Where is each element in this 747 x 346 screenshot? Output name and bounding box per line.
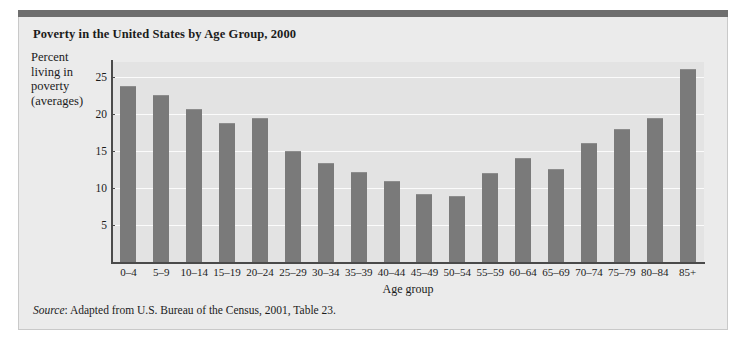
bar (482, 173, 498, 262)
bar (153, 95, 169, 262)
y-tick-label: 25 (83, 71, 107, 83)
x-tick-label: 80–84 (638, 266, 671, 278)
x-tick-label: 75–79 (605, 266, 638, 278)
bar (680, 69, 696, 262)
bar (186, 109, 202, 262)
x-tick-label: 60–64 (507, 266, 540, 278)
y-tick-label: 10 (83, 182, 107, 194)
y-tick-label: 15 (83, 145, 107, 157)
gridline (112, 77, 704, 79)
bar (581, 143, 597, 262)
x-axis-line (111, 262, 705, 264)
source-text: : Adapted from U.S. Bureau of the Census… (65, 304, 336, 316)
x-tick-label: 35–39 (342, 266, 375, 278)
x-tick-label: 5–9 (145, 266, 178, 278)
y-tick-label: 20 (83, 108, 107, 120)
figure-page: Poverty in the United States by Age Grou… (0, 0, 747, 346)
source-note: Source: Adapted from U.S. Bureau of the … (33, 304, 336, 316)
y-tick-labels: 510152025 (79, 62, 107, 262)
bar (318, 163, 334, 262)
x-tick-label: 65–69 (540, 266, 573, 278)
y-tick-mark (111, 114, 115, 116)
plot-area (112, 62, 704, 262)
x-tick-label: 15–19 (211, 266, 244, 278)
bar (120, 86, 136, 262)
x-tick-label: 30–34 (309, 266, 342, 278)
x-tick-label: 10–14 (178, 266, 211, 278)
y-tick-mark (111, 225, 115, 227)
y-axis-line (111, 60, 113, 263)
bar (647, 118, 663, 262)
bar (614, 129, 630, 262)
x-tick-label: 20–24 (244, 266, 277, 278)
x-tick-label: 50–54 (441, 266, 474, 278)
x-tick-label: 85+ (671, 266, 704, 278)
bar (285, 151, 301, 262)
x-tick-label: 55–59 (474, 266, 507, 278)
figure-top-rule (18, 10, 728, 17)
x-tick-labels: 0–45–910–1415–1920–2425–2930–3435–3940–4… (112, 266, 704, 282)
x-axis-title: Age group (112, 282, 704, 297)
bar (384, 181, 400, 262)
x-tick-label: 25–29 (276, 266, 309, 278)
bar (515, 158, 531, 262)
y-tick-mark (111, 188, 115, 190)
figure-title: Poverty in the United States by Age Grou… (33, 27, 296, 42)
source-label: Source (33, 304, 65, 316)
bar (416, 194, 432, 262)
x-tick-label: 70–74 (572, 266, 605, 278)
x-tick-label: 45–49 (408, 266, 441, 278)
y-tick-label: 5 (83, 219, 107, 231)
bar (351, 172, 367, 262)
y-tick-mark (111, 77, 115, 79)
x-tick-label: 0–4 (112, 266, 145, 278)
bar (252, 118, 268, 262)
y-tick-mark (111, 151, 115, 153)
bar (449, 196, 465, 262)
x-tick-label: 40–44 (375, 266, 408, 278)
bar (219, 123, 235, 262)
bar (548, 169, 564, 262)
